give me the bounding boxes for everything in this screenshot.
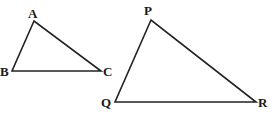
vertex-label-q: Q [101, 95, 111, 110]
vertex-label-p: P [144, 3, 152, 18]
triangle-abc: A B C [0, 6, 112, 79]
vertex-label-c: C [103, 64, 112, 79]
vertex-label-r: R [258, 95, 268, 110]
vertex-label-b: B [0, 64, 9, 79]
vertex-label-a: A [28, 6, 38, 21]
triangle-pqr-shape [115, 20, 256, 102]
triangle-pqr: P Q R [101, 3, 268, 110]
diagram-canvas: A B C P Q R [0, 0, 272, 123]
triangle-abc-shape [12, 21, 101, 71]
